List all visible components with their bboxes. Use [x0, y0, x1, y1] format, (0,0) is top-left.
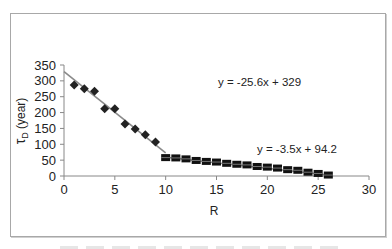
x-tick-label: 20: [260, 182, 274, 197]
y-tick-label: 300: [34, 73, 56, 88]
data-point-diamond: [110, 104, 119, 113]
y-tick-label: 150: [34, 121, 56, 136]
y-axis-title: τD (year): [12, 98, 30, 145]
y-tick-label: 350: [34, 58, 56, 73]
x-axis-title: R: [210, 204, 219, 218]
scatter-chart: 050100150200250300350051015202530 y = -2…: [0, 0, 392, 249]
equation-label-2: y = -3.5x + 94.2: [257, 143, 337, 155]
y-tick-label: 0: [49, 169, 56, 184]
data-point-diamond: [100, 104, 109, 113]
x-tick-label: 10: [158, 182, 172, 197]
x-tick-label: 0: [60, 182, 67, 197]
x-tick-label: 30: [362, 182, 376, 197]
x-tick-label: 25: [311, 182, 325, 197]
data-point-diamond: [141, 130, 150, 139]
y-tick-label: 200: [34, 105, 56, 120]
y-tick-label: 50: [42, 153, 56, 168]
x-tick-label: 15: [209, 182, 223, 197]
data-points: [70, 80, 333, 178]
x-tick-label: 5: [111, 182, 118, 197]
data-point-diamond: [151, 138, 160, 147]
data-point-diamond: [121, 119, 130, 128]
equation-label-1: y = -25.6x + 329: [218, 76, 301, 88]
y-tick-label: 100: [34, 137, 56, 152]
y-tick-label: 250: [34, 89, 56, 104]
